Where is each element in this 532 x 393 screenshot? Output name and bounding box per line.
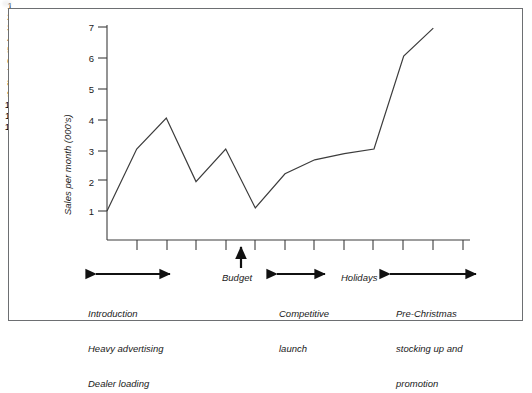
x-axis-ticks — [137, 240, 463, 250]
annotation-introduction-line-2: Heavy advertising — [88, 343, 164, 355]
annotation-competitive-launch-line-2: launch — [279, 343, 329, 355]
y-axis-ticks — [98, 27, 107, 211]
sales-line-series — [107, 28, 433, 211]
annotation-introduction-line-3: Dealer loading — [88, 378, 164, 390]
annotation-pre-christmas-line-2: stocking up and — [396, 343, 463, 355]
annotation-pre-christmas-line-3: promotion — [396, 378, 463, 390]
